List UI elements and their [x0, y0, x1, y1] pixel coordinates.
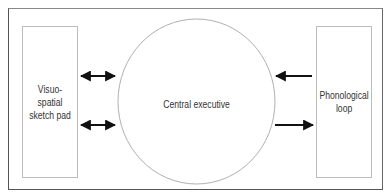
phonological-loop-label: Phonological loop [319, 89, 368, 115]
central-executive-label-wrap: Central executive [118, 94, 275, 112]
central-executive-label: Central executive [163, 98, 230, 111]
visuo-spatial-label: Visuo-spatial sketch pad [28, 83, 72, 122]
visuo-spatial-sketch-pad-box: Visuo-spatial sketch pad [22, 26, 78, 178]
phonological-loop-box: Phonological loop [316, 26, 372, 178]
